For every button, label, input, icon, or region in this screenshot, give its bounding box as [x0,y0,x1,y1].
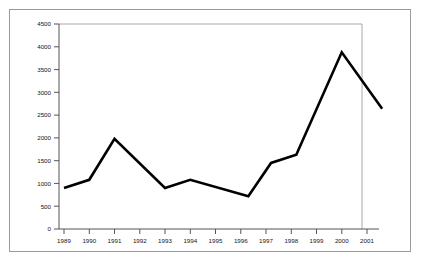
x-tick-label: 1989 [57,237,71,244]
y-axis-ticks [54,24,59,229]
y-tick-label: 4500 [37,20,51,27]
x-tick-label: 1994 [183,237,197,244]
chart-figure: 0 500 1000 1500 2000 2500 3000 3500 4000… [0,0,422,264]
x-axis-ticks [64,229,367,234]
y-tick-label: 2000 [37,134,51,141]
y-tick-label: 3500 [37,66,51,73]
data-series-line [64,52,382,196]
x-tick-label: 1998 [284,237,298,244]
x-tick-label: 1992 [133,237,147,244]
x-tick-label: 1990 [82,237,96,244]
y-tick-label: 1000 [37,180,51,187]
x-tick-label: 1991 [108,237,122,244]
x-axis-labels: 1989 1990 1991 1992 1993 1994 1995 1996 … [57,237,374,244]
y-tick-label: 0 [48,225,52,232]
x-tick-label: 1995 [209,237,223,244]
y-tick-label: 3000 [37,89,51,96]
x-tick-label: 1997 [259,237,273,244]
x-tick-label: 2000 [335,237,349,244]
y-tick-label: 4000 [37,43,51,50]
y-axis-labels: 0 500 1000 1500 2000 2500 3000 3500 4000… [37,20,51,232]
y-tick-label: 1500 [37,157,51,164]
y-tick-label: 500 [41,203,52,210]
y-tick-label: 2500 [37,111,51,118]
x-tick-label: 1999 [310,237,324,244]
plot-frame [59,24,362,229]
line-chart: 0 500 1000 1500 2000 2500 3000 3500 4000… [0,0,422,264]
x-tick-label: 1993 [158,237,172,244]
x-tick-label: 1996 [234,237,248,244]
x-tick-label: 2001 [360,237,374,244]
